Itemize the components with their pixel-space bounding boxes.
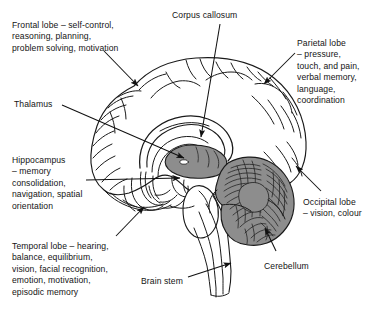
label-temporal-lobe: Temporal lobe – hearing, balance, equili… [12, 241, 152, 298]
label-hippocampus: Hippocampus – memory consolidation, navi… [12, 155, 132, 212]
cerebellum-leader [265, 228, 276, 251]
corpus-callosum-leader [201, 24, 220, 137]
label-cerebellum: Cerebellum [264, 261, 344, 272]
label-thalamus: Thalamus [14, 99, 104, 110]
label-frontal-lobe: Frontal lobe – self-control, reasoning, … [12, 20, 202, 54]
label-occipital-lobe: Occipital lobe – vision, colour [303, 197, 386, 220]
occipital-lobe-leader [296, 166, 321, 191]
brain-diagram: Frontal lobe – self-control, reasoning, … [0, 0, 386, 322]
label-corpus-callosum: Corpus callosum [172, 10, 292, 21]
label-brain-stem: Brain stem [141, 276, 221, 287]
thalamus-leader [62, 105, 184, 158]
frontal-lobe-leader [104, 51, 138, 86]
label-parietal-lobe: Parietal lobe – pressure, touch, and pai… [297, 38, 385, 106]
brain-stem-leader [188, 263, 231, 277]
parietal-lobe-leader [264, 53, 295, 84]
